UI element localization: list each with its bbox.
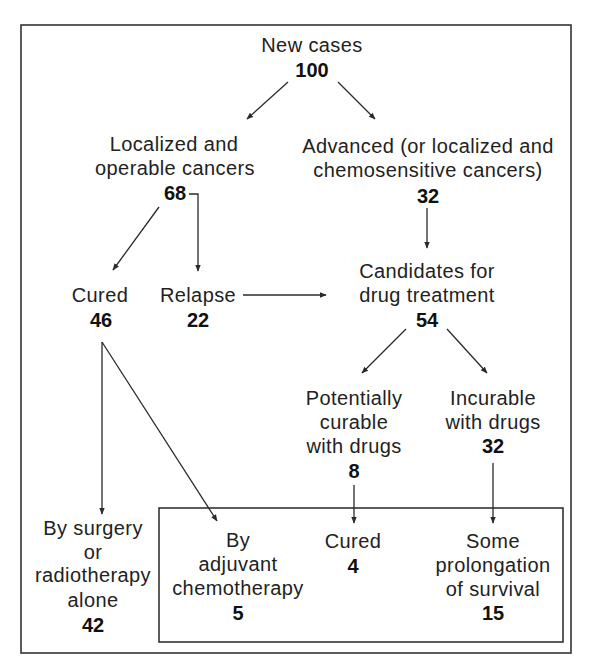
- node-potentially-curable: Potentially curable with drugs 8: [305, 387, 402, 482]
- node-relapse: Relapse 22: [160, 284, 236, 331]
- node-label-line: or: [84, 541, 103, 563]
- node-label-line: of survival: [446, 578, 540, 600]
- node-label-line: Potentially: [306, 387, 403, 409]
- node-localized: Localized and operable cancers 68: [95, 133, 255, 204]
- arrow-localized-to-cured: [113, 207, 159, 270]
- node-incurable: Incurable with drugs 32: [444, 387, 540, 457]
- node-label-line: adjuvant: [199, 553, 278, 575]
- node-value: 46: [90, 309, 112, 331]
- node-value: 32: [417, 185, 439, 207]
- node-label: New cases: [261, 34, 362, 56]
- node-value: 32: [482, 435, 504, 457]
- node-label-line: with drugs: [305, 435, 401, 457]
- arrow-cured-to-adjuvant: [102, 342, 217, 521]
- node-label-line: Incurable: [450, 387, 536, 409]
- node-new-cases: New cases 100: [261, 34, 362, 81]
- node-label-line: radiotherapy: [35, 564, 151, 586]
- arrow-candidates-to-curable: [362, 329, 406, 373]
- node-label: Cured: [325, 530, 381, 552]
- node-label: Cured: [72, 284, 128, 306]
- node-label-line: chemosensitive cancers): [313, 159, 542, 181]
- node-label-line: chemotherapy: [172, 577, 304, 599]
- node-label-line: operable cancers: [95, 157, 255, 179]
- node-label-line: Candidates for: [359, 260, 495, 282]
- node-prolongation: Some prolongation of survival 15: [436, 530, 551, 624]
- node-drug-cured: Cured 4: [325, 530, 381, 577]
- node-label-line: Some: [466, 530, 520, 552]
- node-label-line: By: [226, 529, 250, 551]
- node-value: 54: [416, 309, 439, 331]
- node-candidates: Candidates for drug treatment 54: [359, 260, 495, 331]
- node-value: 100: [295, 59, 328, 81]
- arrow-localized-to-relapse: [189, 194, 198, 271]
- arrow-candidates-to-incurable: [447, 329, 487, 373]
- node-label-line: By surgery: [43, 517, 143, 539]
- flow-diagram: New cases 100 Localized and operable can…: [0, 0, 590, 670]
- node-cured: Cured 46: [72, 284, 128, 331]
- node-value: 5: [232, 602, 243, 624]
- arrow-new-to-advanced: [338, 82, 375, 119]
- node-value: 22: [187, 309, 209, 331]
- node-label-line: with drugs: [444, 411, 540, 433]
- node-value: 8: [348, 460, 359, 482]
- node-value: 68: [164, 182, 186, 204]
- arrow-new-to-localized: [247, 82, 288, 119]
- node-label: Relapse: [160, 284, 236, 306]
- node-surgery-alone: By surgery or radiotherapy alone 42: [35, 517, 151, 636]
- node-label-line: drug treatment: [359, 284, 495, 306]
- node-value: 42: [82, 614, 104, 636]
- node-value: 4: [347, 555, 359, 577]
- node-label-line: curable: [320, 411, 388, 433]
- node-advanced: Advanced (or localized and chemosensitiv…: [302, 135, 554, 207]
- node-label-line: Advanced (or localized and: [302, 135, 554, 157]
- node-label-line: alone: [68, 589, 119, 611]
- node-label-line: Localized and: [110, 133, 239, 155]
- node-adjuvant: By adjuvant chemotherapy 5: [172, 529, 304, 624]
- node-label-line: prolongation: [436, 554, 551, 576]
- node-value: 15: [482, 602, 504, 624]
